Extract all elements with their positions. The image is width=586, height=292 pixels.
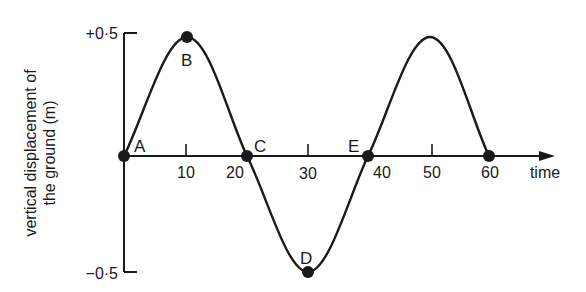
point-b [181,31,193,43]
x-tick-10: 10 [177,164,195,181]
y-axis-title-line2: the ground (m) [41,101,58,206]
point-label-d: D [300,249,312,268]
x-tick-40: 40 [373,164,391,181]
x-tick-60: 60 [481,164,499,181]
y-tick-bottom: −0·5 [86,265,119,282]
arrow-right-icon [539,151,555,161]
x-tick-20: 20 [226,164,244,181]
wave-chart: +0·5 −0·5 vertical displacement of the g… [0,0,586,292]
x-tick-30: 30 [299,165,317,182]
point-c [241,150,253,162]
x-tick-50: 50 [423,164,441,181]
point-label-e: E [348,137,359,156]
y-axis-title-line1: vertical displacement of [22,69,39,237]
y-axis-title: vertical displacement of the ground (m) [22,69,58,237]
point-label-b: B [181,51,192,70]
point-label-c: C [254,137,266,156]
point-e [362,150,374,162]
point-a [118,150,130,162]
data-points [118,31,495,278]
displacement-curve [124,37,489,272]
point-60 [483,150,495,162]
x-axis: 10 20 30 40 50 60 time [124,144,560,182]
point-label-a: A [134,137,146,156]
y-tick-top: +0·5 [86,25,119,42]
x-axis-title: time [530,164,560,181]
